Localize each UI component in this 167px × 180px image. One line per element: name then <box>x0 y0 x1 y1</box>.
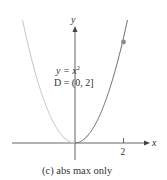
max-point <box>121 40 126 45</box>
x-tick-label: 2 <box>121 147 126 157</box>
function-label: y = x2 <box>55 64 80 76</box>
x-axis-label: x <box>151 137 157 148</box>
function-exponent: 2 <box>77 64 80 71</box>
y-axis-arrow-icon <box>73 26 78 32</box>
y-axis-label: y <box>70 14 76 25</box>
domain-label: D = (0, 2] <box>54 77 94 89</box>
figure-caption: (c) abs max only <box>42 165 113 177</box>
x-axis-arrow-icon <box>144 141 150 146</box>
graph: y x 2 y = x2 D = (0, 2] (c) abs max only <box>0 0 167 180</box>
